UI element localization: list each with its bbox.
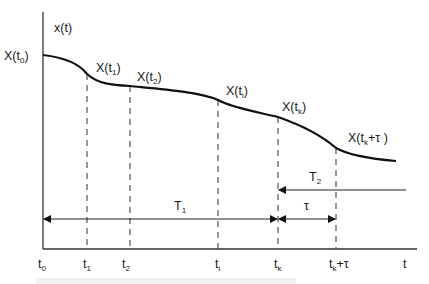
label-T2: T2 — [309, 170, 322, 186]
tick-tk-tau: tk+τ — [329, 257, 349, 273]
label-tau: τ — [304, 199, 309, 213]
label-x-tk-tau: X(tk+τ ) — [348, 131, 388, 147]
time-series-diagram: x(t) X(t0) X(t1) X(t2) X(ti) X(tk) X(tk+… — [0, 0, 429, 284]
tick-tk: tk — [274, 257, 282, 273]
tick-t1: t1 — [83, 257, 91, 273]
y-axis-label: x(t) — [54, 21, 72, 35]
label-x-tk: X(tk) — [282, 100, 306, 116]
caption-fragment — [36, 278, 296, 284]
label-x-ti: X(ti) — [226, 84, 248, 100]
tick-ti: ti — [215, 257, 220, 273]
label-T1: T1 — [174, 199, 187, 215]
tick-t2: t2 — [122, 257, 130, 273]
label-x-t2: X(t2) — [137, 70, 162, 86]
label-x-t1: X(t1) — [96, 61, 121, 77]
label-x-t0: X(t0) — [4, 49, 29, 65]
tick-t0: t0 — [38, 257, 46, 273]
x-axis-label: t — [403, 257, 407, 271]
